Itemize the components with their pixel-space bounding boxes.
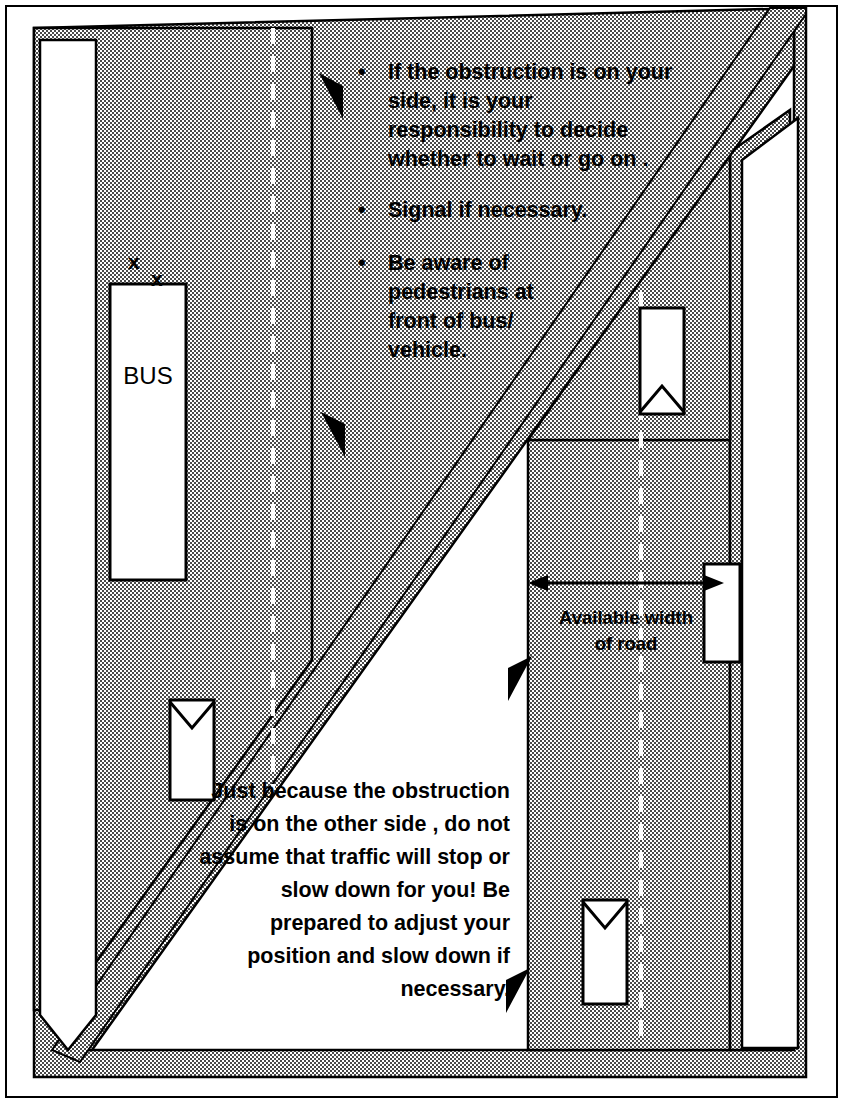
bottom-paragraph: Just because the obstruction is on the o… [190,775,510,1006]
pedestrian-mark: x [128,250,140,274]
bullet-list: • If the obstruction is on your side, it… [352,58,674,387]
right-kerb-strip [742,118,798,1048]
bullet-marker-icon: • [358,249,366,278]
bullet-marker-icon: • [358,58,366,87]
vehicle-plan-icon [583,900,627,1004]
list-item: • If the obstruction is on your side, it… [352,58,674,174]
bullet-text: If the obstruction is on your side, it i… [388,58,674,174]
list-item: • Be aware of pedestrians at front of bu… [352,249,674,365]
bullet-text: Signal if necessary. [388,196,674,225]
bus-plan-icon [110,284,186,580]
pedestrian-mark: x [151,267,163,291]
left-kerb-strip [40,40,96,1050]
list-item: • Signal if necessary. [352,196,674,225]
available-width-label: Available width of road [556,605,696,657]
diagram-canvas: • If the obstruction is on your side, it… [0,0,849,1112]
bullet-marker-icon: • [358,196,366,225]
bus-label: BUS [111,362,185,390]
bullet-text: Be aware of pedestrians at front of bus/… [388,249,548,365]
